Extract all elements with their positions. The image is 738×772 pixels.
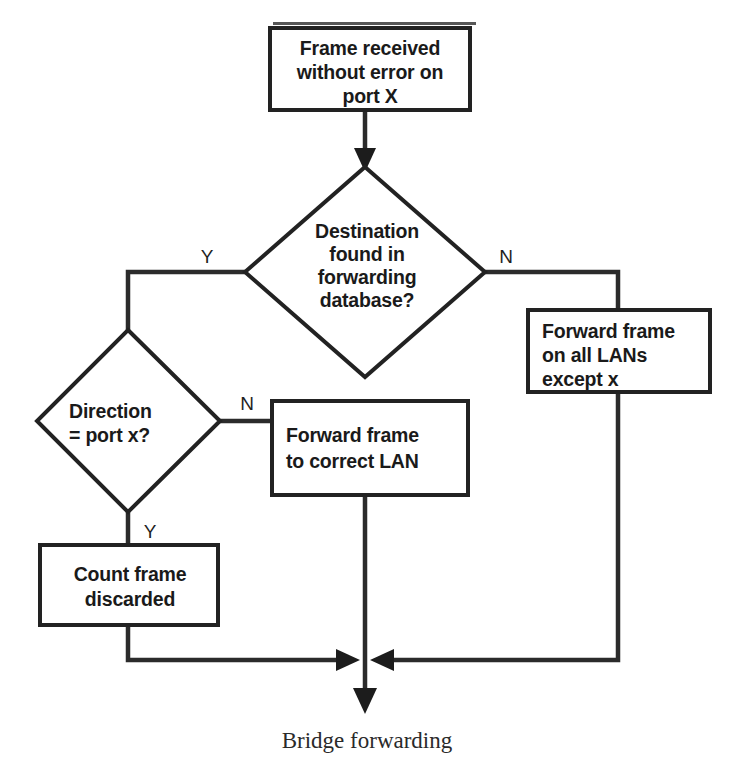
node-forward-correct-lan-line-1: Forward frame	[286, 424, 419, 446]
connector-start-to-lookup	[354, 110, 376, 172]
bridge-forwarding-flowchart: Frame received without error on port X D…	[0, 0, 738, 772]
diagram-caption: Bridge forwarding	[282, 728, 453, 753]
node-frame-received[interactable]: Frame received without error on port X	[270, 28, 470, 110]
node-destination-lookup-line-1: Destination	[315, 220, 419, 242]
branch-label-lookup-no: N	[499, 246, 513, 267]
connector-discard-to-junction	[128, 625, 360, 671]
node-count-frame-discarded-line-1: Count frame	[74, 563, 187, 585]
branch-label-direction-yes: Y	[144, 521, 157, 542]
node-forward-correct-lan-line-2: to correct LAN	[286, 450, 419, 472]
node-destination-lookup-line-4: database?	[320, 289, 415, 311]
node-forward-all-lans-line-1: Forward frame	[542, 320, 675, 342]
node-forward-all-lans-line-2: on all LANs	[542, 344, 647, 366]
node-forward-correct-lan[interactable]: Forward frame to correct LAN	[272, 401, 468, 495]
node-forward-all-lans[interactable]: Forward frame on all LANs except x	[528, 310, 710, 392]
branch-label-lookup-yes: Y	[201, 246, 214, 267]
node-destination-lookup-decision[interactable]: Destination found in forwarding database…	[245, 167, 485, 377]
node-destination-lookup-line-3: forwarding	[318, 266, 417, 288]
node-direction-decision[interactable]: Direction = port x?	[37, 330, 220, 512]
node-forward-all-lans-line-3: except x	[542, 368, 619, 390]
connector-lookup-no-to-flood	[485, 272, 618, 310]
node-destination-lookup-line-2: found in	[329, 243, 404, 265]
node-frame-received-line-3: port X	[342, 85, 397, 107]
node-count-frame-discarded-line-2: discarded	[85, 588, 175, 610]
scan-artifact-top-rule	[273, 22, 476, 25]
node-frame-received-line-1: Frame received	[300, 37, 440, 59]
node-count-frame-discarded[interactable]: Count frame discarded	[40, 545, 218, 625]
node-direction-line-2: = port x?	[69, 424, 150, 446]
connector-forward-to-exit	[353, 495, 377, 714]
node-direction-line-1: Direction	[69, 400, 152, 422]
flowchart-canvas: Frame received without error on port X D…	[0, 0, 738, 772]
connector-lookup-yes-to-direction	[128, 272, 245, 330]
branch-label-direction-no: N	[240, 393, 254, 414]
node-frame-received-line-2: without error on	[296, 61, 443, 83]
